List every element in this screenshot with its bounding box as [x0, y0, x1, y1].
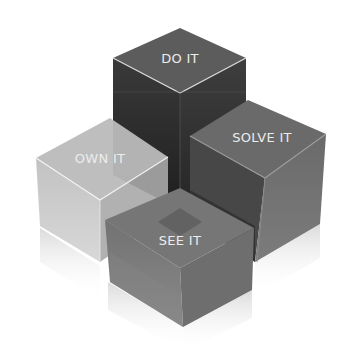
cube-label: DO IT	[161, 51, 199, 66]
cube-diagram: DO IT OWN IT SOLVE IT SEE IT	[0, 0, 359, 353]
cube-label: OWN IT	[75, 151, 126, 166]
cube-label: SOLVE IT	[232, 130, 292, 145]
cube-label: SEE IT	[159, 233, 201, 248]
